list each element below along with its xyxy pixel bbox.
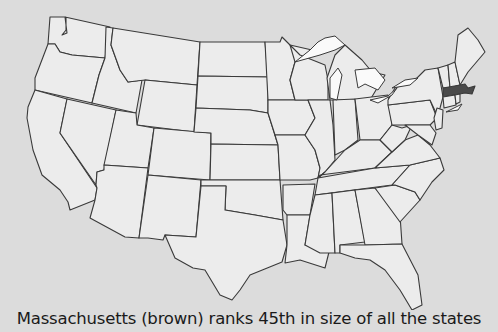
state-montana	[111, 28, 200, 85]
state-arizona	[90, 165, 148, 238]
state-florida	[340, 244, 422, 310]
state-colorado	[148, 128, 211, 180]
map-caption: Massachusetts (brown) ranks 45th in size…	[0, 309, 498, 328]
state-kansas	[210, 144, 280, 180]
state-wyoming	[137, 80, 197, 132]
lake-huron	[355, 68, 385, 90]
state-north-dakota	[198, 42, 268, 77]
state-new-mexico	[139, 175, 201, 240]
state-arkansas	[283, 184, 315, 215]
state-south-dakota	[196, 76, 268, 113]
state-maine	[455, 28, 485, 85]
us-map	[0, 0, 498, 310]
state-rhode-island	[455, 94, 460, 104]
state-connecticut	[443, 95, 456, 108]
